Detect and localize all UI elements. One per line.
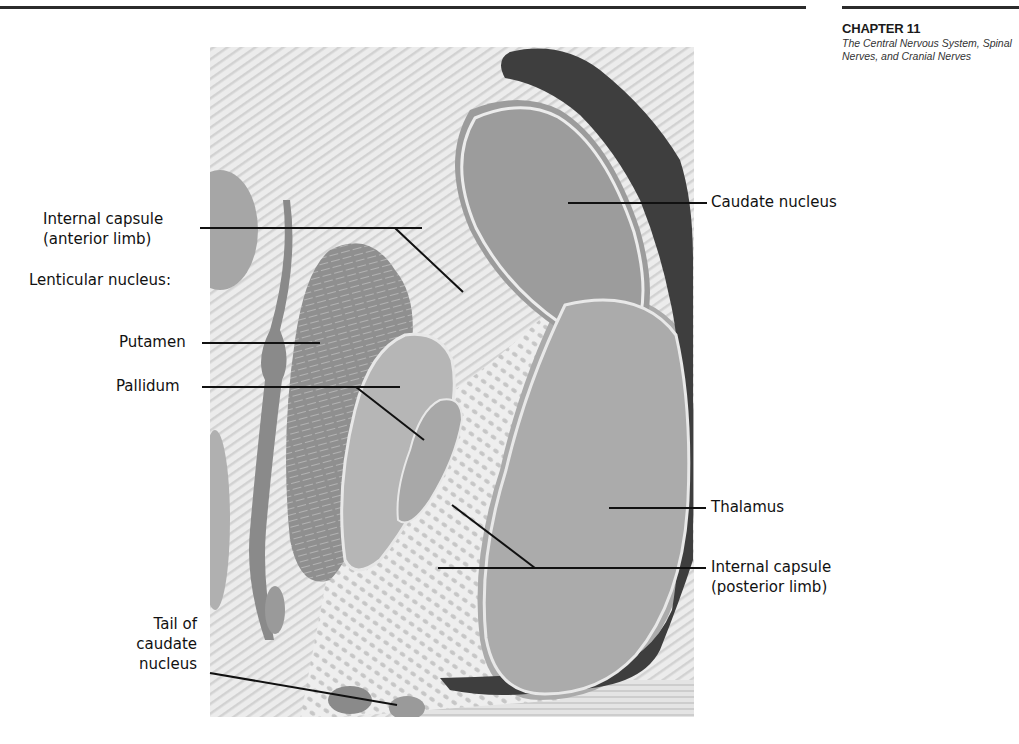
label-line-1: Tail of bbox=[118, 614, 197, 634]
label-thalamus: Thalamus bbox=[711, 497, 784, 517]
label-line-3: nucleus bbox=[118, 654, 197, 674]
label-putamen: Putamen bbox=[119, 332, 186, 352]
label-tail-of-caudate: Tail of caudate nucleus bbox=[118, 614, 197, 674]
label-line-2: (anterior limb) bbox=[43, 229, 163, 249]
label-internal-capsule-posterior: Internal capsule (posterior limb) bbox=[711, 557, 831, 597]
label-internal-capsule-anterior: Internal capsule (anterior limb) bbox=[43, 209, 163, 249]
label-line-2: caudate bbox=[118, 634, 197, 654]
label-line-1: Internal capsule bbox=[43, 209, 163, 229]
label-pallidum: Pallidum bbox=[116, 376, 180, 396]
anatomy-panel bbox=[182, 47, 696, 720]
label-line-1: Internal capsule bbox=[711, 557, 831, 577]
label-line-2: (posterior limb) bbox=[711, 577, 831, 597]
label-caudate-nucleus: Caudate nucleus bbox=[711, 192, 837, 212]
label-lenticular-nucleus: Lenticular nucleus: bbox=[29, 270, 171, 290]
